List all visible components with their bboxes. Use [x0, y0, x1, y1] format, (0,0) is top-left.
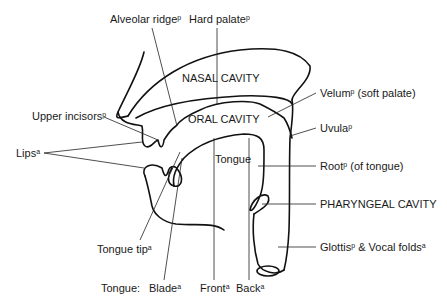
leader-alveolar-ridge	[152, 28, 177, 126]
pharynx-front-wall	[253, 214, 284, 273]
label-tongue-region: Tongue	[215, 153, 251, 165]
lower-lip-jaw	[144, 165, 182, 186]
label-lips: Lipsa	[16, 147, 40, 159]
label-upper-incisors: Upper incisorsp	[32, 110, 106, 122]
leader-tongue-tip	[140, 152, 180, 240]
label-alveolar-ridge: Alveolar ridgep	[110, 13, 181, 25]
leader-upper-incisors	[104, 117, 158, 140]
leader-lips-upper	[44, 142, 142, 153]
tongue-surface	[173, 134, 268, 214]
label-tongue-prefix: Tongue:	[101, 282, 140, 294]
label-uvula: Uvulap	[320, 122, 352, 134]
leader-blade	[164, 158, 182, 280]
label-pharyngeal-cavity: PHARYNGEAL CAVITY	[320, 198, 437, 210]
label-velum: Velump (soft palate)	[320, 87, 416, 99]
vocal-tract-diagram: NASAL CAVITY ORAL CAVITY Tongue PHARYNGE…	[0, 0, 447, 307]
label-front: Fronta	[200, 282, 230, 294]
nose-outline	[117, 52, 144, 118]
label-hard-palate: Hard palatep	[189, 13, 250, 25]
label-root: Rootp (of tongue)	[320, 160, 403, 172]
label-glottis-vocal-folds: Glottisp & Vocal foldsa	[320, 241, 426, 253]
label-blade: Bladea	[149, 282, 181, 294]
label-tongue-tip: Tongue tipa	[97, 243, 152, 255]
label-back: Backa	[236, 282, 264, 294]
leader-uvula	[290, 128, 316, 136]
leader-lips-lower	[44, 153, 144, 168]
label-nasal-cavity: NASAL CAVITY	[182, 72, 260, 84]
label-oral-cavity: ORAL CAVITY	[188, 113, 260, 125]
